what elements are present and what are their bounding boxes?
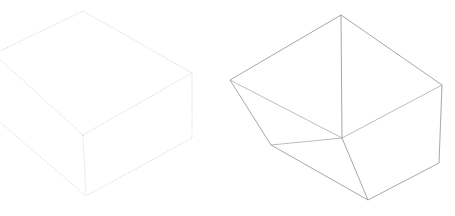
left-box-edge-bottom-right xyxy=(86,138,192,196)
right-box-edge-interior-seam xyxy=(341,15,342,138)
left-box-edge-bottom-left xyxy=(0,117,86,196)
right-box-edge-bottom-right xyxy=(368,163,439,200)
right-box-edge-wall-left xyxy=(230,80,271,145)
right-box-edge-wall-right xyxy=(439,85,442,163)
right-box-edge-front-seam xyxy=(342,138,368,200)
wireframe-figures-svg xyxy=(0,0,455,216)
left-box-edge-vertical-front xyxy=(83,135,86,196)
right-box-edge-top-back-right xyxy=(341,15,442,85)
right-box-edge-top-back-left xyxy=(230,15,341,80)
right-box-edge-floor-right xyxy=(342,85,442,138)
right-figure-group xyxy=(230,15,442,200)
right-box-edge-bottom-left xyxy=(271,145,368,200)
right-box-edge-floor-left xyxy=(230,80,342,138)
left-box-edge-top-front-left xyxy=(0,54,83,135)
right-box-edge-diagonal-left-floor xyxy=(271,138,342,145)
left-box-edge-top-front-right xyxy=(83,73,192,135)
diagram-canvas xyxy=(0,0,455,216)
left-box-edge-top-back-right xyxy=(83,11,192,73)
left-box-edge-top-back-left xyxy=(0,11,83,54)
left-figure-group xyxy=(0,11,192,196)
